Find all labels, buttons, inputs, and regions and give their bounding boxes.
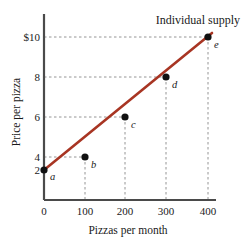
supply-curve-chart: a b c d e $10 8 6 4 2 0 100 200 300 400 … [0,0,248,245]
x-tick-label-200: 200 [117,205,134,217]
data-point-d [162,73,169,80]
data-point-label-c: c [131,119,136,130]
y-axis-title: Price per pizza [10,78,23,146]
y-tick-label-6: 6 [35,111,41,123]
x-tick-label-0: 0 [41,205,47,217]
axes [44,14,216,200]
data-point-label-b: b [91,159,96,170]
data-point-label-d: d [172,79,178,90]
data-point-b [81,153,88,160]
y-tick-label-2: 2 [35,164,41,176]
chart-canvas: a b c d e $10 8 6 4 2 0 100 200 300 400 … [0,0,248,245]
x-tick-label-100: 100 [77,205,94,217]
vertical-gridlines [85,37,208,200]
data-point-a [40,166,47,173]
chart-title: Individual supply [156,13,240,27]
supply-line [44,33,212,170]
data-point-e [204,33,211,40]
y-tick-label-8: 8 [35,71,41,83]
data-point-label-a: a [50,171,55,182]
y-tick-label-4: 4 [35,151,41,163]
data-point-c [121,113,128,120]
x-tick-label-400: 400 [200,205,217,217]
data-point-label-e: e [214,39,219,50]
y-tick-label-10: $10 [24,31,41,43]
x-axis-title: Pizzas per month [88,224,167,237]
x-tick-label-300: 300 [158,205,175,217]
